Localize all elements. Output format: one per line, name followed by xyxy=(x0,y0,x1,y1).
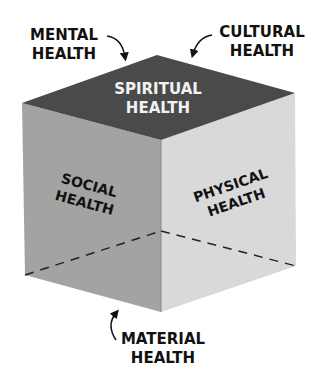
mental-health-label-1: MENTAL xyxy=(30,26,98,44)
material-arrow-icon xyxy=(111,313,116,340)
material-health-label-1: MATERIAL xyxy=(121,330,206,348)
spiritual-health-label-2: HEALTH xyxy=(126,99,190,117)
cultural-health-label-1: CULTURAL xyxy=(219,23,305,41)
spiritual-health-label-1: SPIRITUAL xyxy=(114,80,202,98)
cultural-arrow-icon xyxy=(193,35,212,54)
health-cube-diagram: SPIRITUAL HEALTH SOCIAL HEALTH PHYSICAL … xyxy=(0,0,319,386)
mental-health-label-2: HEALTH xyxy=(32,45,96,63)
material-health-label-2: HEALTH xyxy=(131,349,195,367)
mental-arrow-icon xyxy=(107,36,125,57)
cultural-health-label-2: HEALTH xyxy=(230,42,294,60)
